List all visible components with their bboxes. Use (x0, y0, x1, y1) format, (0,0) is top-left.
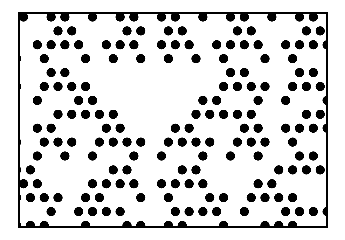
dot-pattern-canvas (20, 14, 326, 226)
pattern-frame (18, 12, 328, 228)
figure-root (0, 0, 345, 240)
